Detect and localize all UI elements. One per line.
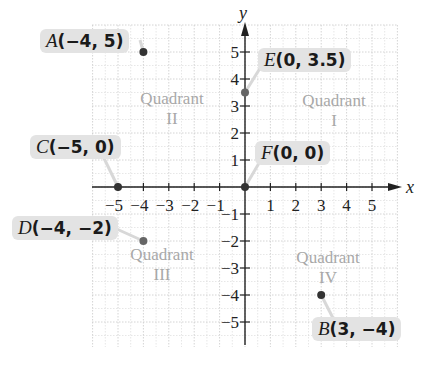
point-label-f: F(0, 0)	[255, 141, 330, 165]
quadrant-ii-label: QuadrantII	[118, 89, 226, 129]
y-tick-label: 4	[231, 70, 240, 89]
x-tick-label: 2	[292, 196, 301, 215]
x-tick-label: 3	[317, 196, 326, 215]
y-tick-label: −1	[221, 205, 239, 224]
point-label-c: C(−5, 0)	[30, 135, 121, 159]
y-axis-arrow-icon	[241, 22, 249, 36]
point-label-a: A(−4, 5)	[40, 29, 129, 53]
point-e	[241, 89, 249, 97]
y-tick-label: −2	[221, 232, 239, 251]
x-tick-label: 5	[368, 196, 377, 215]
point-label-b: B(3, −4)	[312, 317, 401, 341]
quadrant-i-label: QuadrantI	[280, 91, 388, 131]
point-c	[114, 183, 122, 191]
quadrant-iii-label: QuadrantIII	[108, 245, 216, 285]
point-b	[317, 291, 325, 299]
y-tick-label: −4	[221, 286, 240, 305]
x-tick-label: 1	[266, 196, 275, 215]
point-label-e: E(0, 3.5)	[258, 48, 351, 72]
point-a	[139, 48, 147, 56]
x-tick-label: −5	[105, 196, 123, 215]
x-tick-label: −4	[130, 196, 149, 215]
y-tick-label: 2	[231, 124, 240, 143]
point-label-d: D(−4, −2)	[12, 216, 118, 240]
quadrant-iv-label: QuadrantIV	[274, 248, 382, 288]
coordinate-plane: xy−5−4−3−2−112345−5−4−3−2−112345	[0, 0, 425, 365]
y-tick-label: −5	[221, 313, 239, 332]
y-tick-label: 3	[231, 97, 240, 116]
y-tick-label: 1	[231, 151, 240, 170]
x-tick-label: −2	[181, 196, 199, 215]
y-tick-label: −3	[221, 259, 239, 278]
x-axis-label: x	[405, 177, 414, 197]
point-f	[241, 183, 249, 191]
x-tick-label: 4	[342, 196, 351, 215]
point-d	[139, 237, 147, 245]
y-axis-label: y	[237, 3, 247, 23]
y-tick-label: 5	[231, 43, 240, 62]
x-tick-label: −3	[156, 196, 174, 215]
x-axis-arrow-icon	[388, 183, 402, 191]
